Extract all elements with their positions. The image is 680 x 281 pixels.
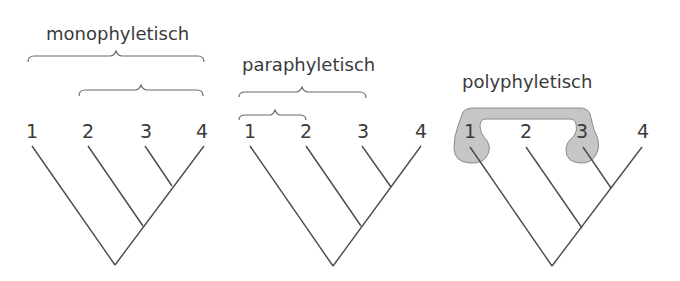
tip-label: 2 [82,120,94,142]
tip-label: 3 [576,120,588,142]
tree [470,147,642,266]
panel-title: monophyletisch [46,23,189,44]
tip-label: 3 [140,120,152,142]
tip-label: 1 [244,120,256,142]
tip-label: 3 [357,120,369,142]
tip-label: 1 [26,120,38,142]
tip-label: 4 [415,120,427,142]
panel-title: paraphyletisch [242,54,375,75]
brace-inner [79,85,203,96]
brace-outer [28,51,204,62]
tip-label: 4 [196,120,208,142]
tip-label: 1 [464,120,476,142]
panel-title: polyphyletisch [462,71,592,92]
cladogram-figure: monophyletisch 1 2 3 4 paraphyletisch 1 … [0,0,680,281]
panel-paraphyletic: paraphyletisch 1 2 3 4 [239,54,427,266]
tip-label: 2 [300,120,312,142]
tip-label: 4 [637,120,649,142]
tip-label: 2 [520,120,532,142]
tree [32,146,204,265]
tree [250,146,421,266]
panel-polyphyletic: polyphyletisch 1 2 3 4 [454,71,649,266]
panel-monophyletic: monophyletisch 1 2 3 4 [26,23,208,265]
brace-outer [239,87,366,98]
brace-inner [239,110,306,120]
